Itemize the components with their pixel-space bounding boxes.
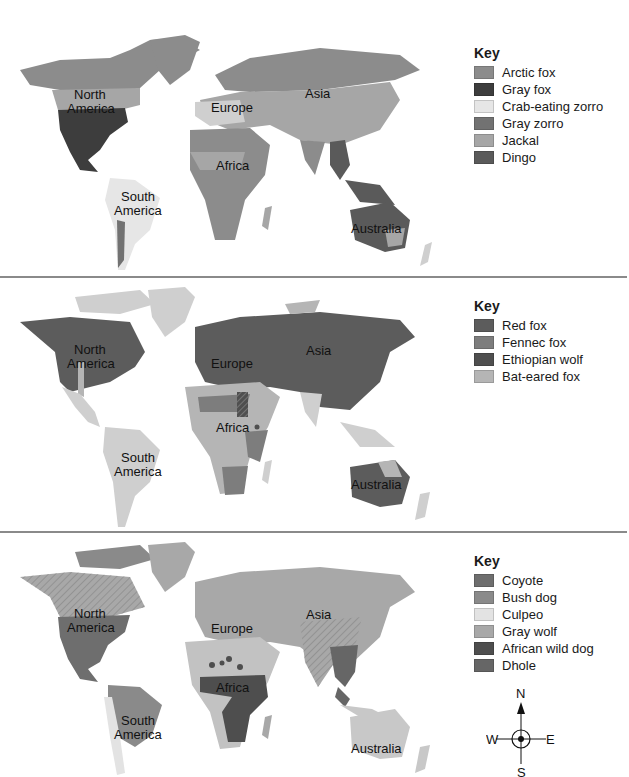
legend-label: Arctic fox [502,65,555,80]
label-south-america: South [121,713,155,728]
legend-item: Crab-eating zorro [474,98,603,115]
world-map-2: North America South America Europe Asia … [0,282,460,530]
legend-label: Fennec fox [502,335,566,350]
legend-item: Gray zorro [474,115,603,132]
swatch-african-wild-dog [474,642,494,655]
legend-label: Gray wolf [502,624,557,639]
label-africa: Africa [216,158,250,173]
legend-label: Gray fox [502,82,551,97]
label-australia: Australia [351,477,402,492]
compass-e: E [546,732,555,747]
legend-title: Key [474,45,603,61]
legend-item: Fennec fox [474,334,583,351]
legend-item: Dingo [474,149,603,166]
legend-1: Key Arctic fox Gray fox Crab-eating zorr… [474,45,603,166]
legend-item: Dhole [474,657,594,674]
legend-item: Gray wolf [474,623,594,640]
swatch-culpeo [474,608,494,621]
swatch-coyote [474,574,494,587]
swatch-dingo [474,151,494,164]
legend-label: Jackal [502,133,539,148]
label-north-america: North [74,606,106,621]
label-europe: Europe [211,356,253,371]
legend-label: Dingo [502,150,536,165]
legend-label: Crab-eating zorro [502,99,603,114]
legend-label: African wild dog [502,641,594,656]
divider-1 [0,276,627,278]
legend-item: Gray fox [474,81,603,98]
legend-2: Key Red fox Fennec fox Ethiopian wolf Ba… [474,298,583,385]
legend-title: Key [474,298,583,314]
label-europe: Europe [211,621,253,636]
map-panel-1: North America South America Europe Asia … [0,30,629,276]
swatch-dhole [474,659,494,672]
map-panel-2: North America South America Europe Asia … [0,282,629,530]
compass-rose-icon: N W E S [486,686,556,777]
legend-label: Bat-eared fox [502,369,580,384]
legend-label: Red fox [502,318,547,333]
legend-item: Jackal [474,132,603,149]
label-north-america-2: America [67,101,115,116]
world-map-1: North America South America Europe Asia … [0,30,460,276]
legend-title: Key [474,553,594,569]
swatch-ethiopian-wolf [474,353,494,366]
swatch-red-fox [474,319,494,332]
legend-item: Ethiopian wolf [474,351,583,368]
label-south-america-2: America [114,464,162,479]
divider-2 [0,531,627,533]
legend-label: Culpeo [502,607,543,622]
swatch-bush-dog [474,591,494,604]
legend-label: Gray zorro [502,116,563,131]
legend-item: Culpeo [474,606,594,623]
swatch-fennec-fox [474,336,494,349]
swatch-gray-fox [474,83,494,96]
swatch-bat-eared-fox [474,370,494,383]
legend-label: Bush dog [502,590,557,605]
label-asia: Asia [306,343,332,358]
clipped-title [0,0,629,6]
compass-w: W [486,732,499,747]
label-south-america: South [121,450,155,465]
swatch-gray-wolf [474,625,494,638]
legend-item: Coyote [474,572,594,589]
legend-item: African wild dog [474,640,594,657]
legend-item: Bat-eared fox [474,368,583,385]
world-map-3: North America South America Europe Asia … [0,537,460,777]
legend-label: Coyote [502,573,543,588]
label-south-america-2: America [114,203,162,218]
label-north-america: North [74,342,106,357]
legend-label: Dhole [502,658,536,673]
label-south-america: South [121,189,155,204]
label-australia: Australia [351,741,402,756]
label-asia: Asia [305,86,331,101]
label-north-america-2: America [67,620,115,635]
label-europe: Europe [211,100,253,115]
swatch-gray-zorro [474,117,494,130]
compass-s: S [517,765,526,777]
compass-n: N [516,686,525,701]
legend-item: Arctic fox [474,64,603,81]
label-asia: Asia [306,607,332,622]
swatch-jackal [474,134,494,147]
legend-item: Red fox [474,317,583,334]
swatch-crab-eating-zorro [474,100,494,113]
label-north-america: North [74,87,106,102]
label-north-america-2: America [67,356,115,371]
label-australia: Australia [351,221,402,236]
legend-item: Bush dog [474,589,594,606]
label-africa: Africa [216,680,250,695]
label-south-america-2: America [114,727,162,742]
legend-label: Ethiopian wolf [502,352,583,367]
label-africa: Africa [216,420,250,435]
legend-3: Key Coyote Bush dog Culpeo Gray wolf Afr… [474,553,594,674]
swatch-arctic-fox [474,66,494,79]
